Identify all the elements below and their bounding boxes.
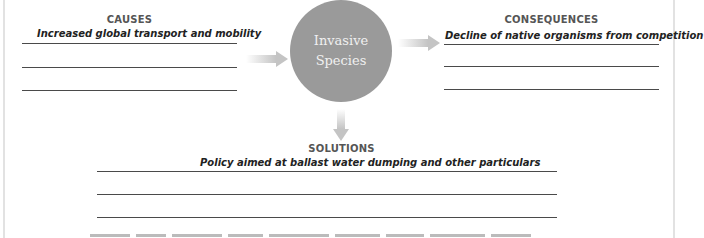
arrow-down-icon xyxy=(333,109,349,141)
arrow-right-icon xyxy=(398,35,440,51)
consequences-line-2 xyxy=(444,66,659,67)
causes-title: CAUSES xyxy=(22,14,237,25)
causes-line-1 xyxy=(22,43,237,44)
solutions-line-1 xyxy=(97,171,557,172)
solutions-answer-1[interactable]: Policy aimed at ballast water dumping an… xyxy=(200,157,540,168)
causes-line-3 xyxy=(22,90,237,91)
consequences-line-1 xyxy=(444,44,659,45)
central-topic-circle: Invasive Species xyxy=(290,0,392,102)
solutions-line-2 xyxy=(97,194,557,195)
consequences-title: CONSEQUENCES xyxy=(444,14,659,25)
consequences-line-3 xyxy=(444,89,659,90)
central-topic-line-1: Invasive xyxy=(314,31,368,51)
causes-line-2 xyxy=(22,67,237,68)
arrow-right-icon xyxy=(246,51,288,67)
causes-answer-1[interactable]: Increased global transport and mobility xyxy=(37,28,261,39)
solutions-line-3 xyxy=(97,217,557,218)
central-topic-line-2: Species xyxy=(316,51,367,71)
cut-off-text xyxy=(90,228,590,238)
consequences-answer-1[interactable]: Decline of native organisms from competi… xyxy=(445,30,704,41)
solutions-title: SOLUTIONS xyxy=(97,143,586,154)
